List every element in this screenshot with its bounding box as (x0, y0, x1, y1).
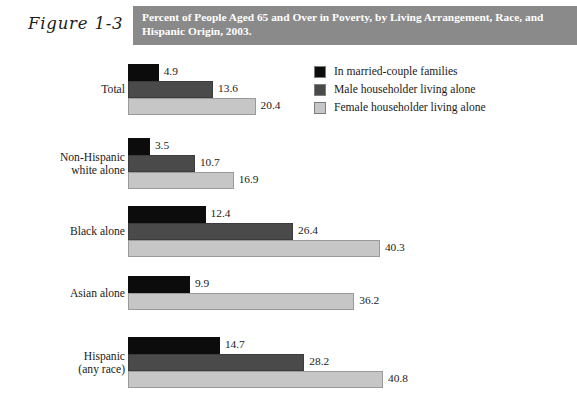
bar-group: Asian alone9.936.2 (0, 276, 577, 310)
bar[interactable] (128, 276, 190, 293)
bar-value-label: 26.4 (298, 224, 318, 236)
bar-value-label: 16.9 (239, 173, 259, 185)
bar-group: Hispanic(any race)14.728.240.8 (0, 337, 577, 388)
bar-value-label: 14.7 (225, 338, 245, 350)
bar[interactable] (128, 64, 159, 81)
figure-number-label: Figure 1-3 (28, 14, 128, 33)
bar[interactable] (128, 98, 256, 115)
category-label-line: white alone (60, 164, 125, 177)
category-label-line: (any race) (78, 363, 125, 376)
bar-value-label: 3.5 (155, 139, 169, 151)
category-label-line: Hispanic (78, 350, 125, 363)
category-label-line: Total (101, 83, 125, 96)
chart-plot-area: Total4.913.620.4Non-Hispanicwhite alone3… (0, 52, 577, 405)
category-label: Black alone (70, 225, 125, 238)
category-label: Non-Hispanicwhite alone (60, 151, 125, 177)
category-label-line: Black alone (70, 225, 125, 238)
bar-value-label: 36.2 (359, 294, 379, 306)
category-label: Asian alone (70, 287, 125, 300)
category-label: Total (101, 83, 125, 96)
bar[interactable] (128, 293, 354, 310)
figure-header: Figure 1-3 Percent of People Aged 65 and… (0, 0, 577, 52)
bar[interactable] (128, 81, 213, 98)
bar-group: Black alone12.426.440.3 (0, 206, 577, 257)
bar[interactable] (128, 354, 304, 371)
bar-value-label: 13.6 (218, 82, 238, 94)
bar[interactable] (128, 172, 234, 189)
bar[interactable] (128, 371, 383, 388)
bar-value-label: 40.8 (388, 372, 408, 384)
bar-group: Non-Hispanicwhite alone3.510.716.9 (0, 138, 577, 189)
bar[interactable] (128, 206, 206, 223)
bar-value-label: 10.7 (200, 156, 220, 168)
bar-value-label: 9.9 (195, 277, 209, 289)
bar[interactable] (128, 223, 293, 240)
category-label-line: Asian alone (70, 287, 125, 300)
bar-value-label: 12.4 (211, 207, 231, 219)
bar[interactable] (128, 155, 195, 172)
bar-value-label: 20.4 (261, 99, 281, 111)
figure-title: Percent of People Aged 65 and Over in Po… (142, 10, 565, 39)
bar[interactable] (128, 337, 220, 354)
bar[interactable] (128, 240, 380, 257)
category-label: Hispanic(any race) (78, 350, 125, 376)
bar[interactable] (128, 138, 150, 155)
figure-title-band: Percent of People Aged 65 and Over in Po… (133, 6, 577, 45)
category-label-line: Non-Hispanic (60, 151, 125, 164)
bar-value-label: 40.3 (385, 241, 405, 253)
bar-value-label: 4.9 (164, 65, 178, 77)
bar-group: Total4.913.620.4 (0, 64, 577, 115)
bar-value-label: 28.2 (309, 355, 329, 367)
